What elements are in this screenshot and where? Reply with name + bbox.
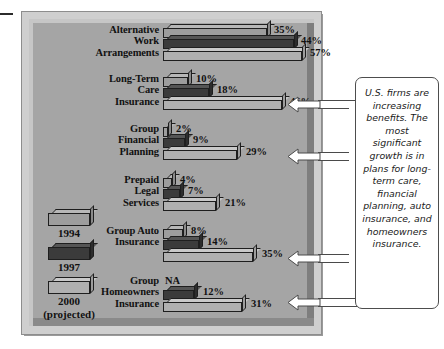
group-label-line: Arrangements [29, 47, 159, 58]
group-label: Alternative Work Arrangements [29, 24, 159, 58]
group-label: Prepaid Legal Services [29, 174, 159, 208]
bar-value-label: 57% [310, 47, 331, 58]
bar-value-label: 12% [203, 286, 224, 297]
bar-end-cap [302, 43, 306, 61]
legend-label: 2000 [32, 295, 106, 307]
bar-top-face [167, 24, 275, 28]
group-label-line: Long-Term [29, 73, 159, 84]
bar-2000 [163, 51, 302, 61]
group-label-line: Alternative [29, 24, 159, 35]
swatch-front-face [48, 247, 90, 260]
group-label-line: Prepaid [29, 174, 159, 185]
bar-end-cap [253, 244, 257, 262]
bar-end-cap [242, 294, 246, 312]
bar-value-label: 10% [196, 73, 217, 84]
callout-arrow-long-term-care [287, 95, 321, 114]
bar-front-face [163, 302, 242, 312]
group-label-line: Legal [29, 185, 159, 196]
bar-value-label: 29% [246, 146, 267, 157]
bar-2000 [163, 302, 242, 312]
bar-value-label: 21% [225, 197, 246, 208]
bar-end-cap [237, 142, 241, 160]
bar-front-face [163, 252, 253, 262]
swatch-end-cap [90, 205, 94, 226]
bar-value-label: 35% [274, 24, 295, 35]
bar-top-face [167, 134, 193, 138]
swatch-front-face [48, 281, 90, 294]
bar-value-label: 9% [193, 134, 209, 145]
legend-swatch-1997 [48, 247, 90, 260]
legend-swatch-1994 [48, 213, 90, 226]
bar-front-face [163, 150, 237, 160]
bar-top-face [167, 47, 310, 51]
bar-top-face [167, 298, 250, 302]
chart-figure: Alternative Work Arrangements 35% 44% [0, 0, 444, 349]
bar-value-label: 31% [251, 298, 272, 309]
bar-top-face [167, 225, 191, 229]
legend-label: 1997 [32, 261, 106, 273]
group-label-line: Work [29, 35, 159, 46]
swatch-end-cap [90, 239, 94, 260]
swatch-front-face [48, 213, 90, 226]
bar-end-cap [282, 92, 286, 110]
group-label-line: Financial [29, 134, 159, 145]
legend-label: 1994 [32, 227, 106, 239]
bar-value-label: 14% [207, 236, 228, 247]
bar-1994 [163, 127, 168, 137]
group-label-line: Group [29, 123, 159, 134]
callout-arrow-auto-insurance [287, 249, 321, 268]
bar-value-label: 18% [217, 84, 238, 95]
bar-top-face [167, 146, 245, 150]
bar-top-face [167, 248, 261, 252]
group-label-line: Services [29, 197, 159, 208]
legend-item-2000[interactable]: 2000 (projected) [32, 281, 106, 320]
group-label: Long-Term Care Insurance [29, 73, 159, 107]
edge-dash-mark [0, 13, 13, 15]
bar-top-face [167, 35, 302, 39]
group-label-line: Care [29, 84, 159, 95]
bar-front-face [163, 51, 302, 61]
legend-item-1994[interactable]: 1994 [32, 213, 106, 239]
bar-value-label: 35% [262, 248, 283, 259]
bar-top-face [167, 96, 290, 100]
legend-swatch-2000 [48, 281, 90, 294]
callout-arrow-homeowners-insurance [287, 293, 321, 312]
group-label-line: Insurance [29, 96, 159, 107]
bar-value-label: 7% [188, 185, 204, 196]
bar-2000 [163, 201, 216, 211]
legend-label-projected: (projected) [32, 308, 106, 320]
legend-item-1997[interactable]: 1997 [32, 247, 106, 273]
callout-connector-homeowners-insurance [318, 298, 358, 307]
callout-box: U.S. firms are increasing benefits. The … [355, 77, 439, 309]
bar-value-label: 2% [176, 123, 192, 134]
bar-front-face [163, 100, 282, 110]
bar-value-label-na: NA [165, 275, 180, 286]
bar-front-face [163, 201, 216, 211]
bar-end-cap [216, 193, 220, 211]
bar-2000 [163, 100, 282, 110]
bar-2000 [163, 150, 237, 160]
callout-arrow-financial-planning [287, 147, 321, 166]
bar-top-face [167, 185, 188, 189]
group-label-line: Planning [29, 146, 159, 157]
group-label: Group Financial Planning [29, 123, 159, 157]
bar-2000 [163, 252, 253, 262]
swatch-end-cap [90, 273, 94, 294]
